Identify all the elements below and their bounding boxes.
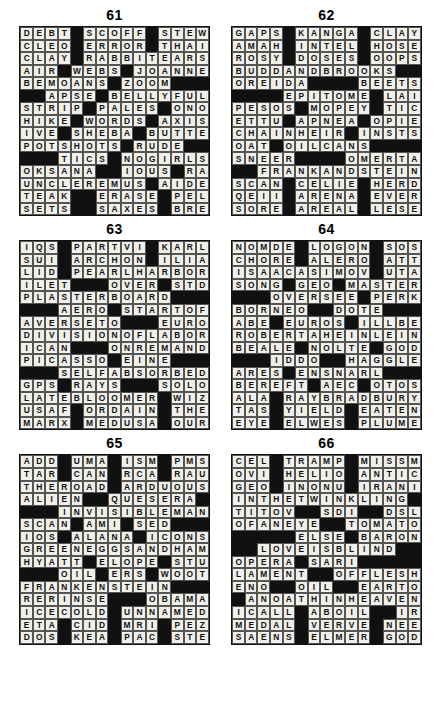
grid-letter-cell[interactable]: N: [121, 152, 134, 165]
grid-letter-cell[interactable]: L: [245, 392, 258, 405]
grid-letter-cell[interactable]: S: [408, 52, 421, 65]
grid-letter-cell[interactable]: E: [333, 291, 346, 304]
grid-letter-cell[interactable]: H: [408, 568, 421, 581]
grid-letter-cell[interactable]: E: [33, 203, 46, 216]
grid-letter-cell[interactable]: E: [408, 354, 421, 367]
grid-letter-cell[interactable]: S: [96, 152, 109, 165]
grid-letter-cell[interactable]: C: [245, 606, 258, 619]
grid-letter-cell[interactable]: D: [184, 178, 197, 191]
grid-letter-cell[interactable]: R: [270, 165, 283, 178]
grid-letter-cell[interactable]: E: [333, 254, 346, 267]
grid-letter-cell[interactable]: D: [96, 619, 109, 632]
grid-letter-cell[interactable]: E: [146, 342, 159, 355]
grid-letter-cell[interactable]: D: [270, 65, 283, 78]
grid-letter-cell[interactable]: R: [158, 367, 171, 380]
grid-letter-cell[interactable]: S: [333, 316, 346, 329]
grid-letter-cell[interactable]: O: [308, 52, 321, 65]
grid-letter-cell[interactable]: P: [96, 102, 109, 115]
grid-letter-cell[interactable]: V: [308, 619, 321, 632]
grid-letter-cell[interactable]: T: [320, 90, 333, 103]
grid-letter-cell[interactable]: V: [121, 241, 134, 254]
grid-letter-cell[interactable]: H: [295, 127, 308, 140]
grid-letter-cell[interactable]: E: [333, 52, 346, 65]
grid-letter-cell[interactable]: U: [121, 606, 134, 619]
grid-letter-cell[interactable]: O: [358, 254, 371, 267]
grid-letter-cell[interactable]: M: [345, 90, 358, 103]
grid-letter-cell[interactable]: M: [333, 266, 346, 279]
grid-letter-cell[interactable]: M: [257, 241, 270, 254]
grid-letter-cell[interactable]: E: [358, 593, 371, 606]
grid-letter-cell[interactable]: E: [58, 493, 71, 506]
grid-letter-cell[interactable]: E: [358, 619, 371, 632]
grid-letter-cell[interactable]: E: [245, 190, 258, 203]
grid-letter-cell[interactable]: D: [196, 606, 209, 619]
grid-letter-cell[interactable]: K: [33, 165, 46, 178]
grid-letter-cell[interactable]: A: [184, 493, 197, 506]
grid-letter-cell[interactable]: E: [133, 392, 146, 405]
grid-letter-cell[interactable]: G: [295, 279, 308, 292]
grid-letter-cell[interactable]: N: [245, 493, 258, 506]
grid-letter-cell[interactable]: O: [96, 392, 109, 405]
grid-letter-cell[interactable]: T: [20, 190, 33, 203]
grid-letter-cell[interactable]: I: [33, 266, 46, 279]
grid-letter-cell[interactable]: A: [83, 379, 96, 392]
grid-letter-cell[interactable]: C: [96, 27, 109, 40]
grid-letter-cell[interactable]: K: [308, 165, 321, 178]
grid-letter-cell[interactable]: A: [83, 241, 96, 254]
grid-letter-cell[interactable]: P: [20, 291, 33, 304]
grid-letter-cell[interactable]: O: [270, 291, 283, 304]
grid-letter-cell[interactable]: F: [96, 367, 109, 380]
grid-letter-cell[interactable]: N: [408, 531, 421, 544]
grid-letter-cell[interactable]: O: [133, 77, 146, 90]
grid-letter-cell[interactable]: R: [184, 165, 197, 178]
grid-letter-cell[interactable]: A: [295, 392, 308, 405]
grid-letter-cell[interactable]: A: [171, 52, 184, 65]
grid-letter-cell[interactable]: E: [158, 493, 171, 506]
grid-letter-cell[interactable]: R: [283, 152, 296, 165]
grid-letter-cell[interactable]: R: [108, 115, 121, 128]
grid-letter-cell[interactable]: R: [96, 404, 109, 417]
grid-letter-cell[interactable]: A: [358, 279, 371, 292]
grid-letter-cell[interactable]: T: [232, 506, 245, 519]
grid-letter-cell[interactable]: E: [33, 593, 46, 606]
grid-letter-cell[interactable]: T: [146, 52, 159, 65]
grid-letter-cell[interactable]: E: [196, 178, 209, 191]
grid-letter-cell[interactable]: E: [83, 581, 96, 594]
grid-letter-cell[interactable]: D: [33, 455, 46, 468]
grid-letter-cell[interactable]: A: [295, 190, 308, 203]
grid-letter-cell[interactable]: A: [108, 102, 121, 115]
grid-letter-cell[interactable]: P: [33, 379, 46, 392]
grid-letter-cell[interactable]: L: [146, 90, 159, 103]
grid-letter-cell[interactable]: A: [370, 404, 383, 417]
grid-letter-cell[interactable]: L: [370, 203, 383, 216]
grid-letter-cell[interactable]: T: [396, 77, 409, 90]
grid-letter-cell[interactable]: H: [20, 115, 33, 128]
grid-letter-cell[interactable]: R: [257, 304, 270, 317]
grid-letter-cell[interactable]: D: [270, 241, 283, 254]
grid-letter-cell[interactable]: C: [345, 379, 358, 392]
grid-letter-cell[interactable]: L: [33, 40, 46, 53]
grid-letter-cell[interactable]: F: [133, 27, 146, 40]
grid-letter-cell[interactable]: A: [45, 190, 58, 203]
grid-letter-cell[interactable]: T: [257, 506, 270, 519]
grid-letter-cell[interactable]: A: [96, 631, 109, 644]
grid-letter-cell[interactable]: E: [383, 568, 396, 581]
grid-letter-cell[interactable]: T: [45, 203, 58, 216]
grid-letter-cell[interactable]: M: [96, 518, 109, 531]
grid-letter-cell[interactable]: L: [383, 90, 396, 103]
grid-letter-cell[interactable]: A: [283, 556, 296, 569]
grid-letter-cell[interactable]: U: [121, 417, 134, 430]
grid-letter-cell[interactable]: N: [71, 493, 84, 506]
grid-letter-cell[interactable]: N: [71, 506, 84, 519]
grid-letter-cell[interactable]: G: [383, 631, 396, 644]
grid-letter-cell[interactable]: E: [358, 581, 371, 594]
grid-letter-cell[interactable]: O: [396, 531, 409, 544]
grid-letter-cell[interactable]: R: [232, 52, 245, 65]
grid-letter-cell[interactable]: S: [320, 531, 333, 544]
grid-letter-cell[interactable]: R: [270, 556, 283, 569]
grid-letter-cell[interactable]: T: [121, 581, 134, 594]
crossword-grid[interactable]: IQSPARTVIKARLSUIARCHONILIALIDPEARLHARBOR…: [19, 240, 209, 430]
grid-letter-cell[interactable]: W: [158, 568, 171, 581]
grid-letter-cell[interactable]: E: [408, 619, 421, 632]
grid-letter-cell[interactable]: A: [345, 392, 358, 405]
